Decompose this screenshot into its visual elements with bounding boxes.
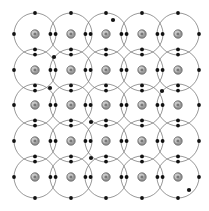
- nucleus-core: [176, 103, 179, 106]
- nucleus-core: [69, 175, 72, 178]
- nucleus-core: [140, 68, 143, 71]
- atom-nucleus: [31, 30, 39, 38]
- atom-nucleus: [174, 137, 182, 145]
- atom-nucleus: [138, 173, 146, 181]
- bond-electron: [176, 119, 180, 123]
- nucleus-core: [176, 32, 179, 35]
- bond-electron: [104, 84, 108, 88]
- bond-electron: [104, 124, 108, 128]
- free-electron: [187, 188, 191, 192]
- edge-electron: [33, 196, 37, 200]
- bond-electron: [69, 53, 73, 57]
- edge-electron: [12, 175, 16, 179]
- atom-nucleus: [102, 30, 110, 38]
- bond-electron: [125, 32, 129, 36]
- bond-electron: [33, 124, 37, 128]
- atom-nucleus: [67, 66, 75, 74]
- bond-electron: [125, 139, 129, 143]
- bond-electron: [33, 84, 37, 88]
- bond-electron: [33, 89, 37, 93]
- atom-nucleus: [102, 137, 110, 145]
- bond-electron: [161, 68, 165, 72]
- edge-electron: [12, 32, 16, 36]
- atom-nucleus: [174, 173, 182, 181]
- bond-electron: [54, 68, 58, 72]
- atom-nucleus: [138, 66, 146, 74]
- atom-nucleus: [67, 173, 75, 181]
- bond-electron: [69, 119, 73, 123]
- atom-nucleus: [67, 137, 75, 145]
- bond-electron: [156, 175, 160, 179]
- edge-electron: [197, 139, 201, 143]
- bond-electron: [89, 103, 93, 107]
- edge-electron: [104, 11, 108, 15]
- atom-nucleus: [67, 30, 75, 38]
- nucleus-core: [104, 103, 107, 106]
- atom-nucleus: [138, 101, 146, 109]
- nucleus-core: [176, 139, 179, 142]
- crystal-lattice-diagram: Covalent crystal lattice of atoms with s…: [0, 0, 209, 211]
- edge-electron: [104, 196, 108, 200]
- bond-electron: [104, 160, 108, 164]
- bond-electron: [33, 119, 37, 123]
- bond-electron: [104, 119, 108, 123]
- edge-electron: [140, 196, 144, 200]
- edge-electron: [12, 139, 16, 143]
- nucleus-core: [104, 139, 107, 142]
- lattice-canvas: Covalent crystal lattice of atoms with s…: [0, 0, 209, 211]
- bond-electron: [161, 175, 165, 179]
- nucleus-core: [104, 68, 107, 71]
- edge-electron: [176, 196, 180, 200]
- nucleus-core: [140, 175, 143, 178]
- bond-electron: [84, 103, 88, 107]
- nucleus-core: [140, 32, 143, 35]
- bond-electron: [120, 68, 124, 72]
- nucleus-core: [69, 103, 72, 106]
- bond-electron: [125, 68, 129, 72]
- atom-nucleus: [138, 137, 146, 145]
- edge-electron: [12, 103, 16, 107]
- bond-electron: [176, 89, 180, 93]
- bond-electron: [104, 48, 108, 52]
- bond-electron: [104, 155, 108, 159]
- bond-electron: [84, 32, 88, 36]
- atom-nucleus: [174, 101, 182, 109]
- atom-nucleus: [102, 173, 110, 181]
- edge-electron: [197, 103, 201, 107]
- bond-electron: [104, 53, 108, 57]
- bond-electron: [33, 160, 37, 164]
- edge-electron: [197, 175, 201, 179]
- bond-electron: [89, 175, 93, 179]
- bond-electron: [176, 155, 180, 159]
- bond-electron: [33, 48, 37, 52]
- nucleus-core: [33, 68, 36, 71]
- bond-electron: [54, 175, 58, 179]
- bond-electron: [54, 139, 58, 143]
- bond-electron: [176, 48, 180, 52]
- bond-electron: [125, 175, 129, 179]
- nucleus-core: [104, 175, 107, 178]
- nucleus-core: [33, 175, 36, 178]
- bond-electron: [69, 89, 73, 93]
- bond-electron: [89, 139, 93, 143]
- bond-electron: [69, 124, 73, 128]
- edge-electron: [33, 11, 37, 15]
- nucleus-core: [140, 139, 143, 142]
- nucleus-core: [33, 32, 36, 35]
- free-electron: [89, 156, 93, 160]
- bond-electron: [104, 89, 108, 93]
- bond-electron: [140, 53, 144, 57]
- free-electron: [111, 18, 115, 22]
- bond-electron: [161, 103, 165, 107]
- edge-electron: [69, 11, 73, 15]
- atom-nucleus: [174, 66, 182, 74]
- free-electron: [160, 89, 164, 93]
- nucleus-core: [69, 139, 72, 142]
- bond-electron: [84, 68, 88, 72]
- atom-nucleus: [31, 137, 39, 145]
- edge-electron: [140, 11, 144, 15]
- nucleus-core: [140, 103, 143, 106]
- bond-electron: [49, 103, 53, 107]
- bond-electron: [89, 68, 93, 72]
- bond-electron: [176, 124, 180, 128]
